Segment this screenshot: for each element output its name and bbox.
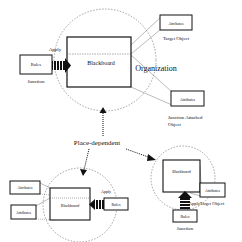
arrow-left-head-icon <box>80 169 87 176</box>
target-object-label: Target Object <box>163 36 190 41</box>
junction-attached-label-line2: Object <box>168 122 181 127</box>
target-attributes-label: Attributes <box>168 22 184 26</box>
bottom-right-apply-label: Apply <box>189 201 201 206</box>
arrow-left-dashed <box>84 149 89 170</box>
bl-apply-arrow-shaft <box>95 200 104 209</box>
bottom-right-rules-label: Rules <box>180 214 190 219</box>
arrow-right-head-icon <box>147 154 156 161</box>
place-dependent-label: Place-dependent <box>74 139 120 147</box>
bottom-left-apply-label: Apply <box>101 189 111 194</box>
bottom-left-attributes-2-label: Attributes <box>16 211 32 215</box>
place-dependent-group: Place-dependent <box>74 107 156 176</box>
junction-attached-connector-line-2 <box>131 87 172 105</box>
bottom-right-blackboard-box <box>163 160 200 192</box>
arrow-up-head-icon <box>100 107 107 113</box>
bottom-left-rules-label: Rules <box>111 202 121 207</box>
target-connector-line <box>131 17 161 45</box>
br-connector-line <box>190 193 201 196</box>
junction-attached-connector-line <box>131 55 172 92</box>
bottom-right-group: Blackboard Attributes Target Object Appl… <box>151 146 225 231</box>
junction-attributes-label: Attributes <box>180 98 196 102</box>
arrow-right-dashed <box>126 149 151 158</box>
bottom-left-group: Blackboard Attributes Attributes Apply R… <box>10 168 128 242</box>
bottom-left-blackboard-label: Blackboard <box>61 203 79 208</box>
organization-group: Blackboard Rules Junction Apply Attribut… <box>20 9 204 127</box>
organization-rules-label: Rules <box>31 62 41 67</box>
target-connector-line-2 <box>131 29 161 54</box>
junction-attached-label-line1: Junction Attached <box>168 115 203 120</box>
organization-apply-label: Apply <box>49 47 62 52</box>
organization-junction-label: Junction <box>28 79 45 84</box>
bottom-left-attributes-1-label: Attributes <box>17 186 33 190</box>
bottom-right-target-object-label: Target Object <box>200 201 225 206</box>
organization-blackboard-label: Blackboard <box>87 60 115 66</box>
apply-arrow-shaft <box>52 61 65 70</box>
bottom-right-junction-label: Junction <box>177 226 194 231</box>
blackboard-diagram: Blackboard Rules Junction Apply Attribut… <box>0 0 242 242</box>
bl-connector-line <box>40 183 50 188</box>
bl-connector-line <box>36 198 50 206</box>
bottom-right-blackboard-label: Blackboard <box>172 169 190 174</box>
bottom-right-attributes-label: Attributes <box>205 189 221 193</box>
organization-title: Organization <box>135 64 177 73</box>
